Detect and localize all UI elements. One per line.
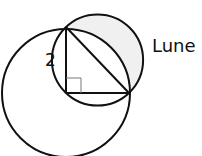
lune-diagram: 2 Lune <box>0 0 202 156</box>
right-angle-marker <box>66 78 81 93</box>
side-length-label: 2 <box>45 50 56 70</box>
lune-label: Lune <box>152 35 196 56</box>
